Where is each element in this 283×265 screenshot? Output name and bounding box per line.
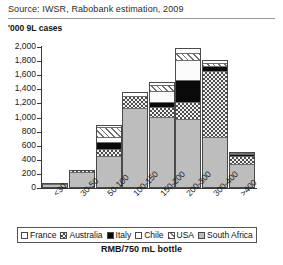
bar-segment-australia[interactable] <box>150 108 174 118</box>
y-tick-label: 1,600 <box>2 69 36 79</box>
legend-swatch-france-icon <box>21 232 28 239</box>
plot-area <box>42 47 255 188</box>
bar-column[interactable] <box>122 47 148 188</box>
legend-swatch-chile-icon <box>135 232 142 239</box>
chart-legend: FranceAustraliaItalyChileUSASouth Africa <box>17 227 257 243</box>
y-axis-labels: 02004006008001,0001,2001,4001,6001,8002,… <box>0 0 36 265</box>
legend-swatch-italy-icon <box>107 232 114 239</box>
y-tick-label: 400 <box>2 154 36 164</box>
bar-column[interactable] <box>202 47 228 188</box>
bar-segment-usa[interactable] <box>97 128 121 138</box>
y-tick-label: 0 <box>2 182 36 192</box>
legend-item-france[interactable]: France <box>21 230 56 240</box>
bar-column[interactable] <box>175 47 201 188</box>
legend-item-italy[interactable]: Italy <box>107 230 132 240</box>
y-tick-label: 1,400 <box>2 83 36 93</box>
legend-label: France <box>30 230 56 240</box>
bar-column[interactable] <box>69 47 95 188</box>
legend-swatch-usa-icon <box>168 232 175 239</box>
y-tick-label: 2,000 <box>2 41 36 51</box>
bar-segment-australia[interactable] <box>123 97 147 109</box>
legend-label: USA <box>177 230 194 240</box>
stacked-bar[interactable] <box>122 92 148 188</box>
y-tick-label: 800 <box>2 126 36 136</box>
stacked-bar[interactable] <box>175 48 201 188</box>
x-axis-labels: <3030-5050-100100-150150-200200-300300-4… <box>42 189 255 223</box>
bar-column[interactable] <box>229 47 255 188</box>
y-tick-label: 200 <box>2 168 36 178</box>
bar-segment-australia[interactable] <box>176 103 200 120</box>
legend-label: South Africa <box>207 230 253 240</box>
legend-swatch-southafrica-icon <box>198 232 205 239</box>
bar-segment-australia[interactable] <box>230 157 254 166</box>
header-divider <box>8 18 275 19</box>
legend-item-chile[interactable]: Chile <box>135 230 163 240</box>
bar-group <box>42 47 255 188</box>
bar-column[interactable] <box>96 47 122 188</box>
y-tick-label: 1,000 <box>2 112 36 122</box>
bar-column[interactable] <box>149 47 175 188</box>
bar-segment-australia[interactable] <box>97 150 121 158</box>
bar-segment-australia[interactable] <box>203 72 227 139</box>
bar-segment-chile[interactable] <box>150 92 174 103</box>
legend-swatch-australia-icon <box>60 232 67 239</box>
legend-item-southafrica[interactable]: South Africa <box>198 230 253 240</box>
bar-segment-usa[interactable] <box>176 54 200 62</box>
bar-segment-chile[interactable] <box>176 61 200 81</box>
y-tick-label: 1,800 <box>2 55 36 65</box>
legend-label: Chile <box>144 230 163 240</box>
y-tick-label: 600 <box>2 140 36 150</box>
y-tick-label: 1,200 <box>2 97 36 107</box>
bar-segment-italy[interactable] <box>176 81 200 103</box>
legend-label: Italy <box>116 230 132 240</box>
chart-container: Source: IWSR, Rabobank estimation, 2009 … <box>0 0 283 265</box>
legend-label: Australia <box>69 230 102 240</box>
source-caption: Source: IWSR, Rabobank estimation, 2009 <box>8 4 270 14</box>
legend-item-usa[interactable]: USA <box>168 230 194 240</box>
x-axis-title: RMB/750 mL bottle <box>0 244 283 254</box>
legend-item-australia[interactable]: Australia <box>60 230 102 240</box>
bar-column[interactable] <box>42 47 68 188</box>
